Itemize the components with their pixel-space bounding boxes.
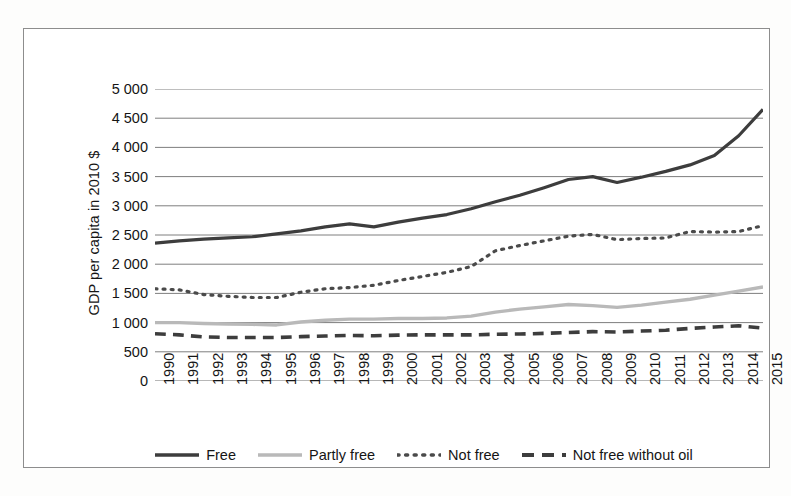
x-tick-label: 1997 xyxy=(331,325,347,385)
y-axis-tick-labels: 5 0004 5004 0003 5003 0002 5002 0001 500… xyxy=(76,89,148,381)
x-tick-label: 2001 xyxy=(429,325,445,385)
y-tick-label: 2 000 xyxy=(78,256,148,272)
x-axis-tick-labels: 1990199119921993199419951996199719981999… xyxy=(155,381,763,441)
x-tick-label: 1996 xyxy=(307,325,323,385)
legend-label: Partly free xyxy=(309,447,375,463)
legend-swatch xyxy=(155,449,199,461)
x-tick-label: 2008 xyxy=(599,325,615,385)
x-tick-label: 2015 xyxy=(769,325,785,385)
x-tick-label: 1990 xyxy=(161,325,177,385)
series-line xyxy=(155,287,763,325)
x-tick-label: 2010 xyxy=(647,325,663,385)
y-tick-label: 4 000 xyxy=(78,139,148,155)
y-tick-label: 500 xyxy=(78,344,148,360)
y-tick-label: 4 500 xyxy=(78,110,148,126)
x-tick-label: 2012 xyxy=(696,325,712,385)
x-tick-label: 2005 xyxy=(526,325,542,385)
x-tick-label: 2006 xyxy=(550,325,566,385)
x-tick-label: 2011 xyxy=(672,325,688,385)
legend-label: Not free xyxy=(448,447,500,463)
x-tick-label: 2000 xyxy=(404,325,420,385)
y-tick-label: 1 000 xyxy=(78,315,148,331)
x-tick-label: 1995 xyxy=(283,325,299,385)
chart-figure: GDP per capita in 2010 $ 5 0004 5004 000… xyxy=(0,0,791,496)
x-tick-label: 1992 xyxy=(210,325,226,385)
x-tick-label: 2007 xyxy=(574,325,590,385)
y-tick-label: 5 000 xyxy=(78,81,148,97)
x-tick-label: 1998 xyxy=(356,325,372,385)
x-tick-label: 1991 xyxy=(185,325,201,385)
legend-item: Not free without oil xyxy=(522,447,693,463)
y-tick-label: 0 xyxy=(78,373,148,389)
y-tick-label: 3 500 xyxy=(78,169,148,185)
x-tick-label: 1993 xyxy=(234,325,250,385)
legend-item: Partly free xyxy=(258,447,375,463)
x-tick-label: 2002 xyxy=(453,325,469,385)
legend-item: Not free xyxy=(397,447,500,463)
x-tick-label: 2009 xyxy=(623,325,639,385)
x-tick-label: 2004 xyxy=(501,325,517,385)
chart-legend: FreePartly freeNot freeNot free without … xyxy=(114,442,734,468)
legend-item: Free xyxy=(155,447,236,463)
legend-swatch xyxy=(522,449,566,461)
y-tick-label: 1 500 xyxy=(78,285,148,301)
legend-swatch xyxy=(258,449,302,461)
x-tick-label: 2003 xyxy=(477,325,493,385)
x-tick-label: 1994 xyxy=(258,325,274,385)
legend-swatch xyxy=(397,449,441,461)
y-tick-label: 2 500 xyxy=(78,227,148,243)
x-tick-label: 1999 xyxy=(380,325,396,385)
chart-frame: GDP per capita in 2010 $ 5 0004 5004 000… xyxy=(23,28,770,468)
legend-label: Not free without oil xyxy=(573,447,693,463)
x-tick-label: 2014 xyxy=(745,325,761,385)
legend-label: Free xyxy=(206,447,236,463)
y-tick-label: 3 000 xyxy=(78,198,148,214)
x-tick-label: 2013 xyxy=(720,325,736,385)
